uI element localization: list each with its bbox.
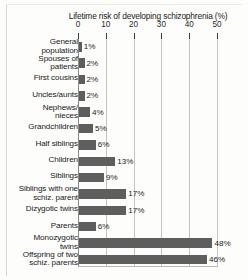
category-label-line: Half siblings: [0, 140, 78, 149]
category-label: Offspring of twoschiz. parents: [0, 251, 78, 268]
category-label: Monozygotictwins: [0, 234, 78, 251]
category-label-line: Children: [0, 156, 78, 165]
bar-row: First cousins2%: [0, 71, 248, 87]
bar-value-label: 6%: [98, 222, 110, 231]
bar-value-label: 9%: [106, 173, 118, 182]
category-label: Uncles/aunts: [0, 91, 78, 100]
category-label: Children: [0, 156, 78, 165]
bar-value-label: 2%: [87, 91, 99, 100]
category-label: Parents: [0, 222, 78, 231]
bar-row: Dizygotic twins17%: [0, 202, 248, 218]
x-tick-label: 10: [101, 20, 110, 29]
bar-row: Siblings with oneschiz. parent17%: [0, 185, 248, 201]
bar-row: Uncles/aunts2%: [0, 87, 248, 103]
category-label: Half siblings: [0, 140, 78, 149]
bar[interactable]: [79, 124, 93, 134]
bar[interactable]: [79, 189, 126, 199]
bar-row: Children13%: [0, 153, 248, 169]
category-label-line: Uncles/aunts: [0, 91, 78, 100]
bar[interactable]: [79, 58, 85, 68]
category-label: First cousins: [0, 74, 78, 83]
bar[interactable]: [79, 157, 115, 167]
bar-row: Generalpopulation1%: [0, 38, 248, 54]
x-tick-label: 50: [212, 20, 221, 29]
bar-row: Offspring of twoschiz. parents46%: [0, 251, 248, 267]
bar[interactable]: [79, 238, 212, 248]
bar-row: Half siblings6%: [0, 136, 248, 152]
bar[interactable]: [79, 107, 90, 117]
bar-row: Spouses ofpatients2%: [0, 54, 248, 70]
x-tick-label: 20: [129, 20, 138, 29]
bar[interactable]: [79, 206, 126, 216]
category-label: Grandchildren: [0, 123, 78, 132]
category-label-line: schiz. parents: [0, 259, 78, 267]
category-label: Generalpopulation: [0, 38, 78, 55]
bar-row: Parents6%: [0, 218, 248, 234]
x-tick-label: 0: [76, 20, 81, 29]
bar-value-label: 17%: [128, 189, 144, 198]
category-label-line: Grandchildren: [0, 123, 78, 132]
bar[interactable]: [79, 42, 82, 52]
bar-value-label: 2%: [87, 59, 99, 68]
bar-row: Monozygotictwins48%: [0, 234, 248, 250]
bar-value-label: 2%: [87, 75, 99, 84]
bar-value-label: 17%: [128, 206, 144, 215]
bar-value-label: 13%: [117, 157, 133, 166]
chart-figure: Lifetime risk of developing schizophreni…: [0, 0, 248, 280]
bar-value-label: 48%: [214, 239, 230, 248]
category-label-line: Dizygotic twins: [0, 205, 78, 214]
bar-value-label: 5%: [95, 124, 107, 133]
category-label-line: Siblings: [0, 172, 78, 181]
bar-row: Grandchildren5%: [0, 120, 248, 136]
x-tick-label: 30: [157, 20, 166, 29]
category-label-line: Parents: [0, 222, 78, 231]
bar[interactable]: [79, 255, 207, 265]
category-label: Dizygotic twins: [0, 205, 78, 214]
category-label-line: First cousins: [0, 74, 78, 83]
x-tick-label: 40: [185, 20, 194, 29]
bar-value-label: 4%: [92, 108, 104, 117]
bar[interactable]: [79, 91, 85, 101]
figure-top-rule: [6, 4, 242, 5]
bar[interactable]: [79, 222, 96, 232]
category-label: Siblings with oneschiz. parent: [0, 185, 78, 202]
category-label: Nephews/nieces: [0, 104, 78, 121]
bar-value-label: 46%: [209, 255, 225, 264]
category-label: Spouses ofpatients: [0, 55, 78, 72]
bar[interactable]: [79, 75, 85, 85]
bar-row: Nephews/nieces4%: [0, 103, 248, 119]
bar[interactable]: [79, 140, 96, 150]
category-label: Siblings: [0, 172, 78, 181]
bar-value-label: 1%: [84, 42, 96, 51]
bar-value-label: 6%: [98, 140, 110, 149]
bar[interactable]: [79, 173, 104, 183]
bar-row: Siblings9%: [0, 169, 248, 185]
